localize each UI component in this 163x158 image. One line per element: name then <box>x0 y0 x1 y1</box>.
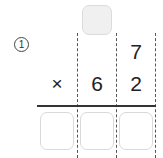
multiplier-ones-digit: 2 <box>117 72 155 96</box>
problem-number: 1 <box>14 37 29 52</box>
answer-box-ones[interactable] <box>119 112 153 150</box>
sum-line <box>37 105 156 107</box>
carry-input-box[interactable] <box>82 5 112 35</box>
multiply-operator: × <box>38 72 76 96</box>
answer-box-hundreds[interactable] <box>40 112 74 150</box>
column-divider <box>155 33 156 158</box>
multiplicand-ones-digit: 7 <box>117 40 155 64</box>
answer-box-tens[interactable] <box>80 112 114 150</box>
multiplier-tens-digit: 6 <box>78 72 116 96</box>
